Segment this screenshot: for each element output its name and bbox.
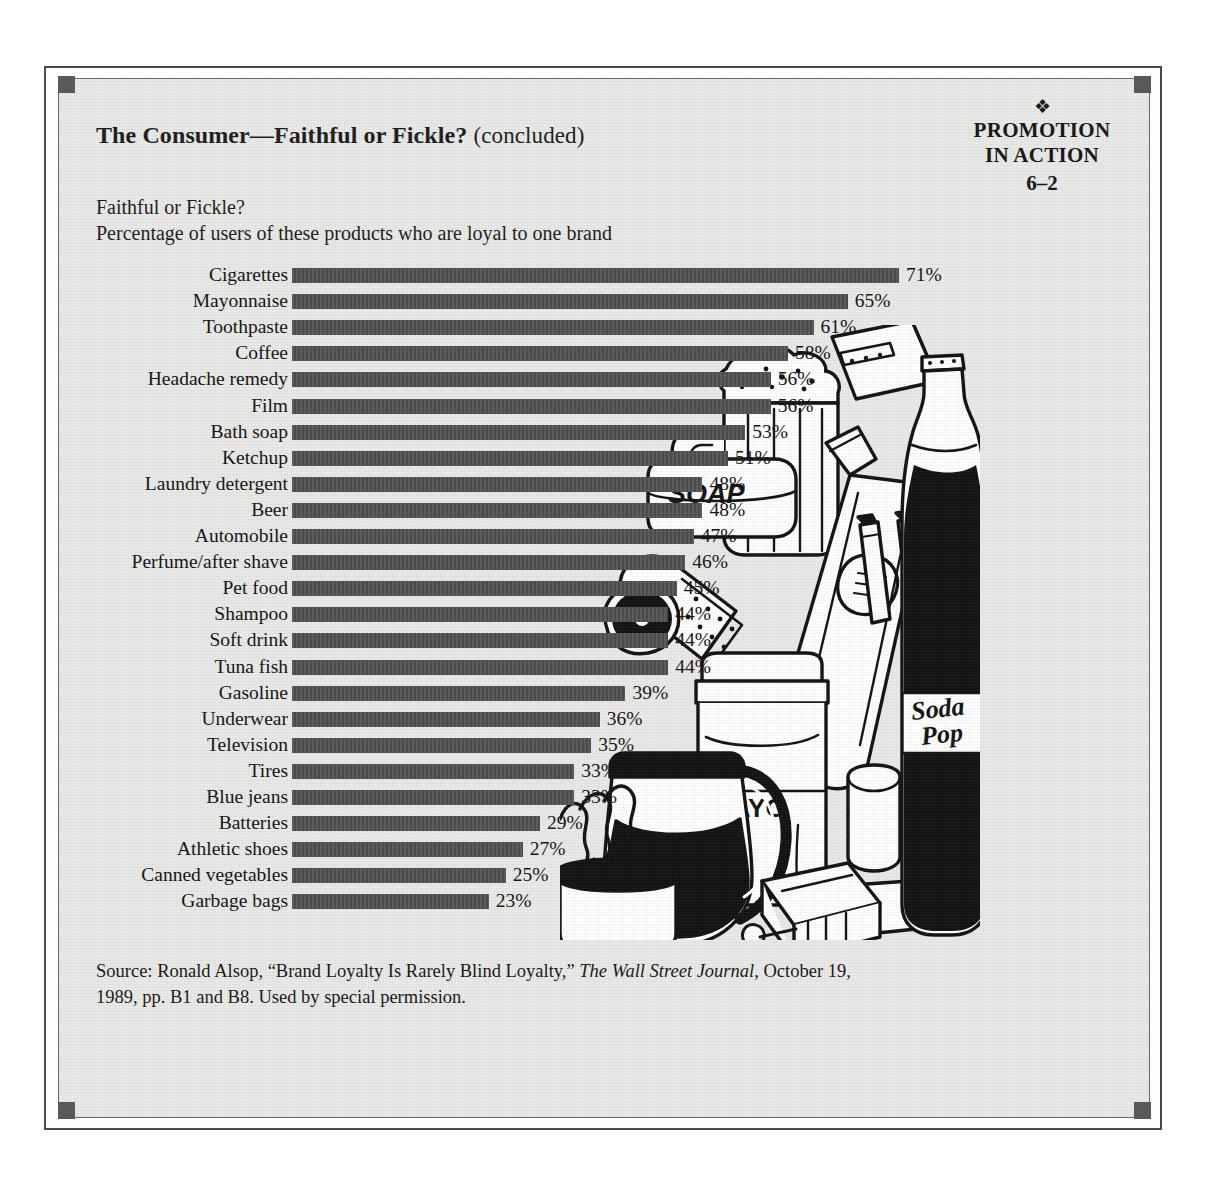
promotion-in-action-badge: ❖ PROMOTION IN ACTION 6–2 [937, 96, 1147, 198]
bar-category-label: Toothpaste [96, 316, 288, 338]
chart-row: Batteries29% [96, 812, 976, 834]
chart-row: Perfume/after shave46% [96, 551, 976, 573]
bar-chart: Cigarettes71%Mayonnaise65%Toothpaste61%C… [96, 264, 976, 924]
bar-category-label: Shampoo [96, 603, 288, 625]
bar-category-label: Television [96, 734, 288, 756]
bar [292, 764, 574, 779]
chart-row: Athletic shoes27% [96, 838, 976, 860]
bar-category-label: Beer [96, 499, 288, 521]
chart-description: Percentage of users of these products wh… [96, 222, 612, 245]
chart-row: Tuna fish44% [96, 656, 976, 678]
bar-value-label: 53% [752, 421, 788, 443]
source-note: Source: Ronald Alsop, “Brand Loyalty Is … [96, 958, 896, 1010]
bar-value-label: 46% [692, 551, 728, 573]
bar [292, 294, 848, 309]
chart-row: Toothpaste61% [96, 316, 976, 338]
source-prefix: Source: Ronald Alsop, “Brand Loyalty Is … [96, 961, 579, 981]
bar-value-label: 71% [906, 264, 942, 286]
exhibit-title-main: The Consumer—Faithful or Fickle? [96, 122, 467, 148]
bar-value-label: 48% [709, 473, 745, 495]
bar-category-label: Gasoline [96, 682, 288, 704]
bar-value-label: 39% [632, 682, 668, 704]
bar [292, 894, 489, 909]
bar-value-label: 56% [778, 395, 814, 417]
bar-value-label: 25% [513, 864, 549, 886]
bar [292, 633, 668, 648]
chart-row: Film56% [96, 395, 976, 417]
bar-category-label: Canned vegetables [96, 864, 288, 886]
bar [292, 686, 625, 701]
bar-category-label: Perfume/after shave [96, 551, 288, 573]
chart-row: Automobile47% [96, 525, 976, 547]
chart-row: Ketchup51% [96, 447, 976, 469]
bar-value-label: 58% [795, 342, 831, 364]
bar-value-label: 51% [735, 447, 771, 469]
bar-value-label: 36% [607, 708, 643, 730]
bar-category-label: Film [96, 395, 288, 417]
bar [292, 425, 745, 440]
chart-row: Underwear36% [96, 708, 976, 730]
bar [292, 503, 702, 518]
exhibit-title: The Consumer—Faithful or Fickle? (conclu… [96, 122, 584, 149]
bar-category-label: Blue jeans [96, 786, 288, 808]
badge-line-2: IN ACTION [937, 143, 1147, 168]
bar-value-label: 65% [855, 290, 891, 312]
bar-category-label: Soft drink [96, 629, 288, 651]
bar [292, 372, 771, 387]
bar-category-label: Underwear [96, 708, 288, 730]
bar-category-label: Mayonnaise [96, 290, 288, 312]
chart-row: Cigarettes71% [96, 264, 976, 286]
chart-row: Gasoline39% [96, 682, 976, 704]
bar [292, 868, 506, 883]
bar-value-label: 29% [547, 812, 583, 834]
chart-row: Garbage bags23% [96, 890, 976, 912]
badge-number: 6–2 [937, 168, 1147, 198]
bar-value-label: 56% [778, 368, 814, 390]
bar-category-label: Athletic shoes [96, 838, 288, 860]
chart-row: Blue jeans33% [96, 786, 976, 808]
corner-marker-top-right [1134, 76, 1151, 93]
bar [292, 581, 677, 596]
diamond-ornament-icon: ❖ [937, 96, 1147, 118]
chart-row: Headache remedy56% [96, 368, 976, 390]
bar-value-label: 27% [530, 838, 566, 860]
chart-row: Soft drink44% [96, 629, 976, 651]
bar-category-label: Laundry detergent [96, 473, 288, 495]
corner-marker-bottom-right [1134, 1102, 1151, 1119]
exhibit-title-suffix: (concluded) [474, 123, 585, 148]
bar-category-label: Cigarettes [96, 264, 288, 286]
bar-category-label: Bath soap [96, 421, 288, 443]
bar-category-label: Tires [96, 760, 288, 782]
bar-category-label: Ketchup [96, 447, 288, 469]
bar [292, 842, 523, 857]
source-publication: The Wall Street Journal [579, 961, 754, 981]
chart-row: Television35% [96, 734, 976, 756]
bar-value-label: 35% [598, 734, 634, 756]
bar-value-label: 44% [675, 603, 711, 625]
chart-row: Bath soap53% [96, 421, 976, 443]
chart-row: Pet food45% [96, 577, 976, 599]
bar [292, 712, 600, 727]
bar [292, 477, 702, 492]
chart-row: Mayonnaise65% [96, 290, 976, 312]
bar-category-label: Tuna fish [96, 656, 288, 678]
bar-value-label: 33% [581, 760, 617, 782]
bar-value-label: 33% [581, 786, 617, 808]
bar-value-label: 44% [675, 629, 711, 651]
bar [292, 607, 668, 622]
bar-category-label: Headache remedy [96, 368, 288, 390]
bar [292, 320, 814, 335]
corner-marker-top-left [58, 76, 75, 93]
bar-category-label: Batteries [96, 812, 288, 834]
bar [292, 529, 694, 544]
bar-category-label: Pet food [96, 577, 288, 599]
chart-row: Coffee58% [96, 342, 976, 364]
corner-marker-bottom-left [58, 1102, 75, 1119]
bar-value-label: 45% [684, 577, 720, 599]
bar-value-label: 23% [496, 890, 532, 912]
bar [292, 555, 685, 570]
bar [292, 268, 899, 283]
chart-row: Laundry detergent48% [96, 473, 976, 495]
bar [292, 738, 591, 753]
chart-row: Beer48% [96, 499, 976, 521]
